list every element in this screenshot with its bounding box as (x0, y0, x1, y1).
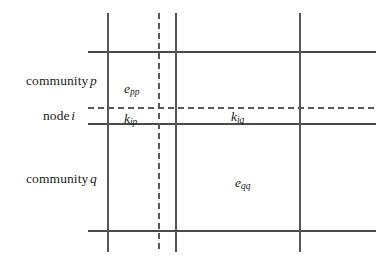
cell-label-e-pp: epp (124, 82, 139, 98)
row-label-node-i: nodei (43, 109, 75, 123)
cell-label-k-ip: kip (124, 112, 137, 128)
cell-label-e-qq: eqq (235, 176, 250, 192)
row-label-community-p-text: community (26, 73, 88, 88)
cell-label-e-pp-sub: pp (130, 87, 139, 97)
cell-label-k-ip-sub: ip (130, 117, 137, 127)
row-label-community-q-text: community (26, 171, 88, 186)
row-label-community-p-symbol: p (88, 73, 96, 88)
row-label-community-q: communityq (26, 172, 97, 186)
row-label-community-q-symbol: q (88, 171, 96, 186)
cell-label-k-iq: kiq (231, 110, 244, 126)
row-label-node-i-symbol: i (70, 108, 75, 123)
cell-label-e-qq-sub: qq (241, 181, 250, 191)
row-label-community-p: communityp (26, 74, 97, 88)
row-label-node-i-text: node (43, 108, 70, 123)
cell-label-k-iq-sub: iq (237, 115, 244, 125)
diagram-canvas: communityp nodei communityq epp kip kiq … (0, 0, 392, 266)
grid-lines (0, 0, 392, 266)
